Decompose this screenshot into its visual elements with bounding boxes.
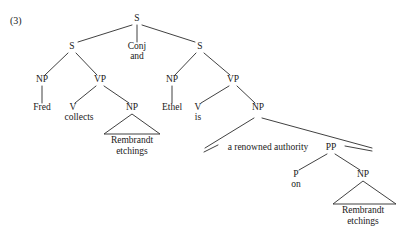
tree-edge-root-to-sleft bbox=[78, 25, 132, 42]
tree-edge-vpright-to-np bbox=[237, 86, 255, 103]
tree-edge-pp-to-p bbox=[299, 154, 327, 170]
tree-node-auth_text: a renowned authority bbox=[228, 142, 309, 152]
tree-node-rem2_line1: Rembrandt bbox=[342, 205, 385, 215]
tree-edge-sleft-to-vp bbox=[76, 53, 97, 75]
tree-node-collects: collects bbox=[64, 112, 93, 122]
tree-node-NP_rem1: NP bbox=[126, 102, 138, 112]
tree-node-and: and bbox=[130, 51, 144, 61]
tree-node-Fred: Fred bbox=[33, 102, 51, 112]
syntax-tree-canvas: SSConjandSNPVPNPVPFredVcollectsNPEthelVi… bbox=[0, 0, 404, 238]
tree-node-S_root: S bbox=[134, 13, 139, 23]
tree-node-is: is bbox=[195, 112, 202, 122]
triangle-rembrandt-etchings-2 bbox=[333, 181, 396, 204]
tree-node-S_right: S bbox=[197, 41, 202, 51]
tree-node-on: on bbox=[291, 179, 301, 189]
tree-edge-pp-to-np bbox=[335, 154, 360, 170]
tree-node-rem1_line1: Rembrandt bbox=[111, 135, 154, 145]
tree-node-NP_fred: NP bbox=[36, 74, 48, 84]
tree-edges bbox=[42, 25, 372, 170]
tree-labels: SSConjandSNPVPNPVPFredVcollectsNPEthelVi… bbox=[33, 13, 384, 226]
tree-edge-sright-to-np bbox=[175, 53, 196, 75]
tree-node-rem2_line2: etchings bbox=[347, 216, 379, 226]
tree-node-VP_left: VP bbox=[94, 74, 106, 84]
tree-node-NP_rem2: NP bbox=[357, 169, 369, 179]
tree-node-NP_auth: NP bbox=[252, 102, 264, 112]
tree-edge-sright-to-vp bbox=[204, 53, 230, 75]
tree-node-Ethel: Ethel bbox=[162, 102, 182, 112]
tree-edge-sleft-to-np bbox=[45, 53, 68, 75]
tree-node-V_coll: V bbox=[70, 102, 77, 112]
tree-triangles bbox=[104, 114, 396, 204]
tree-edge-root-to-sright bbox=[142, 25, 195, 42]
triangle-rembrandt-etchings-1 bbox=[104, 114, 160, 134]
tree-node-P: P bbox=[293, 169, 298, 179]
tree-edge-vpleft-to-np bbox=[104, 86, 129, 103]
tree-node-Conj: Conj bbox=[128, 41, 146, 51]
wedge-a-renowned-authority bbox=[204, 145, 218, 152]
tree-node-VP_right: VP bbox=[227, 74, 239, 84]
tree-node-PP: PP bbox=[326, 142, 337, 152]
syntax-tree-figure: SSConjandSNPVPNPVPFredVcollectsNPEthelVi… bbox=[0, 0, 404, 238]
tree-node-NP_ethel: NP bbox=[166, 74, 178, 84]
tree-edge-vpright-to-v bbox=[201, 86, 229, 103]
tree-node-rem1_line2: etchings bbox=[116, 146, 148, 156]
tree-node-V_is: V bbox=[195, 102, 202, 112]
tree-node-S_left: S bbox=[69, 41, 74, 51]
example-number: (3) bbox=[10, 15, 22, 27]
tree-edge-vpleft-to-v bbox=[75, 86, 96, 103]
